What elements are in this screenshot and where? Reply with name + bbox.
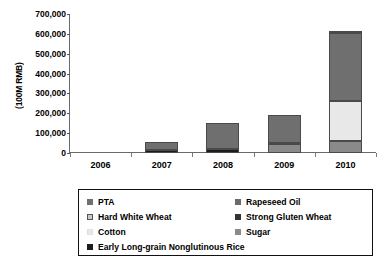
legend-swatch-icon [87, 244, 93, 250]
x-tick-label: 2008 [192, 160, 253, 171]
x-tick-label: 2009 [254, 160, 315, 171]
chart-container: (100M RMB) 700,000600,000500,000400,0003… [0, 0, 387, 273]
y-tick-mark [67, 14, 70, 15]
legend-swatch-icon [87, 229, 93, 235]
legend-label: Hard White Wheat [98, 212, 172, 222]
legend-label: Strong Gluten Wheat [246, 212, 331, 222]
x-tick-mark [315, 153, 316, 157]
legend-swatch-icon [235, 229, 241, 235]
legend-label: Early Long-grain Nonglutinous Rice [98, 242, 245, 252]
bar-segment[interactable] [268, 144, 301, 153]
plot-area: (100M RMB) 700,000600,000500,000400,0003… [0, 0, 387, 185]
x-tick-mark [131, 153, 132, 157]
bar-segment[interactable] [268, 115, 301, 143]
y-tick-mark [67, 133, 70, 134]
bar-segment[interactable] [206, 149, 239, 153]
legend-label: Cotton [98, 227, 126, 237]
y-tick-label: 700,000 [16, 10, 66, 18]
bar-column [131, 14, 192, 153]
x-tick-label: 2010 [315, 160, 376, 171]
bar-segment[interactable] [329, 101, 362, 141]
y-tick-label: 300,000 [16, 89, 66, 97]
y-tick-label: 100,000 [16, 129, 66, 137]
y-tick-mark [67, 113, 70, 114]
bar-column [315, 14, 376, 153]
stacked-bar[interactable] [206, 123, 239, 153]
bar-segment[interactable] [329, 141, 362, 153]
legend-label: PTA [98, 197, 115, 207]
legend-swatch-icon [235, 214, 241, 220]
x-tick-mark [376, 153, 377, 157]
y-tick-mark [67, 54, 70, 55]
stacked-bar[interactable] [145, 142, 178, 153]
legend-item[interactable]: Cotton [87, 227, 126, 237]
bar-column [192, 14, 253, 153]
legend-label: Sugar [246, 227, 270, 237]
legend-item[interactable]: Strong Gluten Wheat [235, 212, 331, 222]
legend-item[interactable]: PTA [87, 197, 115, 207]
bar-segment[interactable] [329, 33, 362, 102]
y-tick-mark [67, 34, 70, 35]
y-tick-label: 500,000 [16, 50, 66, 58]
y-tick-label: 0 [16, 149, 66, 157]
legend-swatch-icon [235, 199, 241, 205]
stacked-bar[interactable] [268, 115, 301, 153]
legend-swatch-icon [87, 214, 93, 220]
y-tick-mark [67, 74, 70, 75]
x-tick-mark [254, 153, 255, 157]
y-tick-label: 200,000 [16, 109, 66, 117]
bar-segment[interactable] [206, 123, 239, 149]
stacked-bar[interactable] [329, 31, 362, 153]
chart-legend: PTAHard White WheatCottonEarly Long-grai… [78, 189, 373, 256]
legend-swatch-icon [87, 199, 93, 205]
y-tick-label: 600,000 [16, 30, 66, 38]
x-tick-label: 2006 [70, 160, 131, 171]
legend-item[interactable]: Rapeseed Oil [235, 197, 300, 207]
x-tick-label: 2007 [131, 160, 192, 171]
x-tick-mark [70, 153, 71, 157]
bar-segment[interactable] [145, 142, 178, 150]
y-axis-tick-labels: 700,000600,000500,000400,000300,000200,0… [14, 0, 66, 155]
bars-area [70, 14, 376, 153]
bar-segment[interactable] [329, 31, 362, 33]
y-tick-mark [67, 153, 70, 154]
legend-item[interactable]: Sugar [235, 227, 270, 237]
legend-item[interactable]: Hard White Wheat [87, 212, 172, 222]
bar-segment[interactable] [145, 150, 178, 153]
y-tick-label: 400,000 [16, 70, 66, 78]
y-tick-mark [67, 93, 70, 94]
legend-label: Rapeseed Oil [246, 197, 300, 207]
legend-item[interactable]: Early Long-grain Nonglutinous Rice [87, 242, 245, 252]
bar-column [70, 14, 131, 153]
bar-column [254, 14, 315, 153]
x-tick-mark [192, 153, 193, 157]
